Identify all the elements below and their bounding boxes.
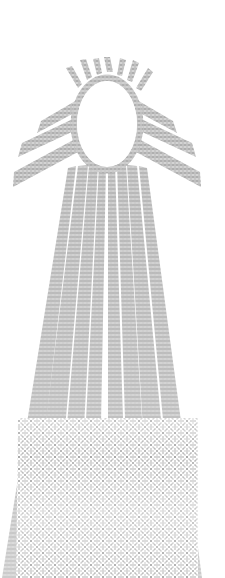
illustration-canvas: Radiant Sun Egg Monochrome dithered half…	[0, 0, 225, 578]
left-margin	[0, 0, 2, 578]
base-block	[0, 400, 225, 578]
sun-egg-illustration	[0, 0, 225, 578]
egg-interior	[77, 81, 137, 167]
right-margin	[203, 0, 225, 578]
